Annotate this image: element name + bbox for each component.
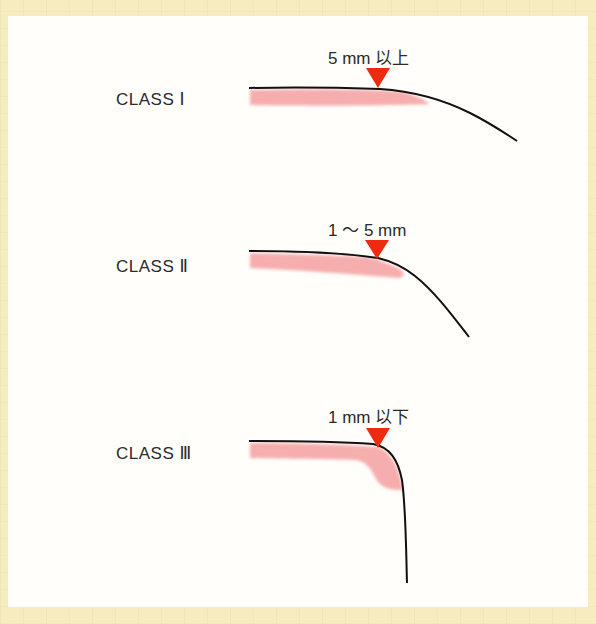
- class-1-marker-icon: [366, 68, 390, 88]
- class-3-shade: [250, 443, 403, 490]
- class-3-marker-icon: [366, 428, 390, 448]
- class-2-figure: [249, 240, 469, 337]
- class-3-measure-label: 1 mm 以下: [328, 403, 409, 428]
- class-2-shade: [250, 253, 404, 278]
- class-3-figure: [249, 428, 407, 583]
- class-1-measure-label: 5 mm 以上: [328, 44, 409, 69]
- class-1-figure: [249, 68, 517, 141]
- class-2-measure-label: 1 ～ 5 mm: [328, 216, 406, 241]
- class-1-label: CLASS Ⅰ: [116, 89, 185, 110]
- class-diagram: [0, 0, 596, 624]
- class-3-label: CLASS Ⅲ: [116, 443, 192, 464]
- class-2-label: CLASS Ⅱ: [116, 256, 188, 277]
